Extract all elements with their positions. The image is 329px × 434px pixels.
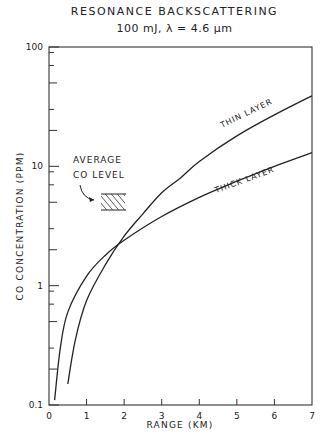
x-tick-label: 6 [272,411,278,421]
thick-layer-label: THICK LAYER [213,165,276,195]
chart-plot: 012345670.1110100 AVERAGE CO LEVEL THIN … [0,0,329,434]
y-tick-label: 10 [32,161,44,171]
y-tick-label: 0.1 [29,400,43,410]
plot-frame [49,47,312,405]
x-tick-label: 7 [309,411,315,421]
average-co-level-annotation: AVERAGE CO LEVEL [73,155,140,214]
thin-layer-curve [68,96,312,384]
y-axis-label: CO CONCENTRATION (PPM) [15,152,25,301]
curves [55,96,312,400]
y-tick-label: 100 [26,42,43,52]
thick-layer-curve [55,153,312,400]
average-label-1: AVERAGE [73,155,122,165]
x-tick-label: 5 [234,411,240,421]
x-tick-label: 2 [121,411,127,421]
axes: 012345670.1110100 [26,42,315,421]
thin-layer-label: THIN LAYER [218,97,274,130]
x-tick-label: 0 [46,411,52,421]
average-label-2: CO LEVEL [73,170,125,180]
x-axis-label: RANGE (KM) [147,420,214,430]
y-tick-label: 1 [37,281,43,291]
x-tick-label: 1 [84,411,90,421]
